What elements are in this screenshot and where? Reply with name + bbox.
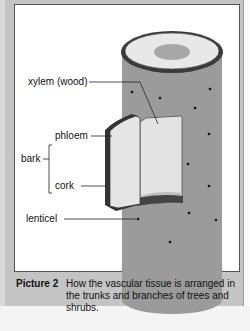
phloem-layer xyxy=(110,116,140,208)
label-cork: cork xyxy=(55,180,74,191)
caption-text: How the vascular tissue is arranged in t… xyxy=(66,278,242,314)
label-xylem: xylem (wood) xyxy=(28,76,87,87)
label-lenticel: lenticel xyxy=(26,213,57,224)
label-phloem: phloem xyxy=(55,130,88,141)
caption-title: Picture 2 xyxy=(16,278,58,290)
label-bark: bark xyxy=(21,153,40,164)
exposed-xylem xyxy=(140,116,182,203)
pith xyxy=(154,44,190,60)
